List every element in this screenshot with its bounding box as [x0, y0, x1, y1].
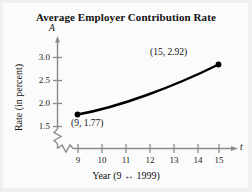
annotation-end-point: (15, 2.92) — [150, 47, 187, 57]
y-axis-break-symbol — [54, 129, 61, 144]
y-tick-label-3-0: 3.0 — [24, 52, 50, 62]
x-tick-label-13: 13 — [164, 155, 184, 165]
data-curve — [78, 65, 219, 115]
x-axis-symbol: t — [240, 142, 243, 152]
x-tick-label-14: 14 — [188, 155, 208, 165]
x-tick-label-11: 11 — [116, 155, 136, 165]
data-point-start — [75, 112, 81, 118]
x-axis-break-symbol — [58, 145, 74, 152]
x-tick-label-9: 9 — [68, 155, 88, 165]
x-axis-title: Year (9 ↔ 1999) — [0, 170, 252, 181]
annotation-start-point: (9, 1.77) — [71, 118, 103, 128]
x-tick-label-15: 15 — [209, 155, 229, 165]
x-tick-label-10: 10 — [92, 155, 112, 165]
y-tick-label-2-0: 2.0 — [24, 98, 50, 108]
y-axis-arrowhead — [55, 36, 60, 43]
data-point-end — [216, 62, 222, 68]
y-axis-symbol: A — [49, 23, 55, 33]
x-tick-label-12: 12 — [140, 155, 160, 165]
y-tick-label-2-5: 2.5 — [24, 75, 50, 85]
chart-figure: Average Employer Contribution Rate — [0, 0, 252, 192]
y-axis-title: Rate (in percent) — [13, 43, 24, 153]
y-tick-label-1-5: 1.5 — [24, 121, 50, 131]
x-axis-arrowhead — [231, 146, 238, 151]
